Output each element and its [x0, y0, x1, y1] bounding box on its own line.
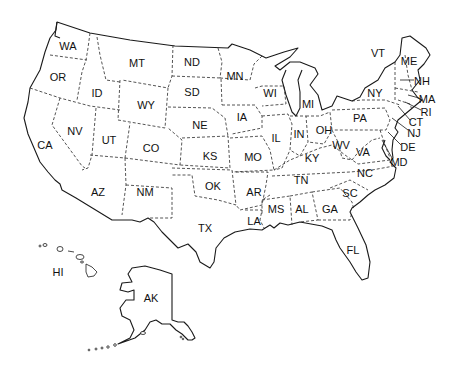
state-label-ak: AK	[144, 293, 159, 304]
state-label-vt: VT	[371, 48, 385, 59]
state-label-mi: MI	[302, 99, 314, 110]
state-label-me: ME	[401, 56, 418, 67]
state-label-mo: MO	[244, 152, 262, 163]
state-label-ga: GA	[322, 204, 338, 215]
state-label-de: DE	[400, 142, 415, 153]
state-label-tx: TX	[198, 223, 212, 234]
state-label-nh: NH	[414, 76, 430, 87]
state-label-wa: WA	[59, 41, 76, 52]
state-label-mt: MT	[129, 58, 145, 69]
state-label-wv: WV	[332, 140, 350, 151]
state-label-ar: AR	[246, 187, 261, 198]
state-label-nj: NJ	[407, 128, 420, 139]
state-label-ne: NE	[192, 120, 207, 131]
state-label-tn: TN	[294, 175, 309, 186]
chesapeake-bay	[382, 140, 390, 160]
state-label-md: MD	[390, 157, 407, 168]
state-label-nd: ND	[184, 57, 200, 68]
state-label-ut: UT	[102, 135, 117, 146]
state-label-az: AZ	[91, 187, 105, 198]
state-label-wi: WI	[263, 88, 276, 99]
state-label-mn: MN	[226, 71, 243, 82]
state-label-nc: NC	[357, 168, 373, 179]
state-label-la: LA	[247, 216, 260, 227]
state-label-sd: SD	[184, 87, 199, 98]
state-label-pa: PA	[353, 113, 367, 124]
state-label-il: IL	[271, 133, 280, 144]
state-label-va: VA	[356, 147, 370, 158]
state-label-in: IN	[294, 129, 305, 140]
state-label-hi: HI	[53, 267, 64, 278]
state-label-oh: OH	[316, 125, 333, 136]
state-label-ia: IA	[237, 112, 247, 123]
state-label-or: OR	[50, 72, 67, 83]
state-label-ca: CA	[37, 140, 52, 151]
state-label-nv: NV	[67, 126, 82, 137]
alaska	[88, 266, 195, 351]
state-label-ok: OK	[205, 181, 221, 192]
puget-sound	[55, 22, 60, 38]
state-label-ma: MA	[419, 94, 436, 105]
state-label-ny: NY	[367, 88, 382, 99]
state-label-sc: SC	[342, 188, 357, 199]
state-label-al: AL	[295, 204, 308, 215]
state-label-ms: MS	[268, 204, 285, 215]
state-label-co: CO	[143, 143, 160, 154]
state-label-nm: NM	[136, 187, 153, 198]
state-label-id: ID	[92, 88, 103, 99]
state-label-ks: KS	[203, 151, 218, 162]
state-borders	[30, 33, 418, 228]
state-label-ky: KY	[305, 153, 320, 164]
us-map	[0, 0, 460, 371]
hawaii	[39, 244, 97, 278]
state-label-fl: FL	[347, 245, 360, 256]
state-label-wy: WY	[137, 100, 155, 111]
